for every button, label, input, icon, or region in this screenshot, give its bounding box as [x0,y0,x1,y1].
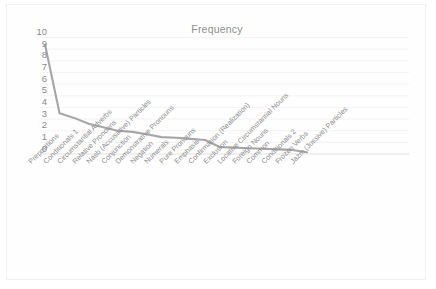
x-axis: PrepositionsConditionals 1Circumstantial… [7,5,427,281]
chart-container: Frequency 109876543210 PrepositionsCondi… [6,4,426,280]
